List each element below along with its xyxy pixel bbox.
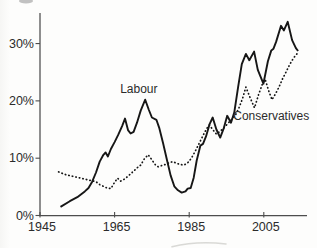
- scan-artifact-bottom: [172, 243, 226, 247]
- series-label-conservatives: Conservatives: [233, 109, 309, 123]
- line-chart: 0%10%20%30%1945196519852005LabourConserv…: [0, 0, 317, 248]
- x-tick-label-1985: 1985: [177, 220, 205, 234]
- x-tick-label-2005: 2005: [252, 220, 280, 234]
- y-tick-label-20: 20%: [9, 94, 34, 108]
- y-tick-label-10: 10%: [9, 151, 34, 165]
- x-tick-label-1965: 1965: [103, 220, 131, 234]
- chart-figure: 0%10%20%30%1945196519852005LabourConserv…: [0, 0, 317, 248]
- scan-artifact-top: [19, 0, 33, 3]
- x-tick-label-1945: 1945: [28, 220, 56, 234]
- y-tick-label-30: 30%: [9, 37, 34, 51]
- series-label-labour: Labour: [120, 82, 157, 96]
